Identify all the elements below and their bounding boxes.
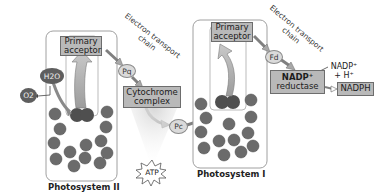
atp-glow [130, 106, 178, 168]
fd-label: Fd [269, 53, 278, 62]
reductase-label-line2: reductase [276, 82, 318, 92]
cytochrome-label-line2: complex [134, 97, 170, 107]
plastocyanin-pc: Pc [169, 119, 188, 134]
nadp-input-label: NADP⁺ + H⁺ [328, 62, 360, 80]
nadp-input-line1: NADP⁺ [328, 62, 360, 71]
ps1-primary-acceptor: Primary acceptor [211, 22, 253, 42]
cytochrome-complex: Cytochrome complex [123, 86, 181, 108]
water-label: H2O [44, 72, 60, 81]
water-molecule: H2O [40, 68, 64, 84]
nadp-input-line2: + H⁺ [328, 71, 360, 80]
nadp-reductase: NADP⁺ reductase [270, 70, 325, 94]
oxygen-label: O2 [23, 91, 34, 100]
photosystem-1-label: Photosystem I [197, 169, 266, 179]
atp-label: ATP [141, 168, 163, 177]
photosystem-1-panel [193, 20, 267, 168]
plastoquinone-pq: Pq [118, 64, 136, 78]
ps2-acceptor-label: Primary acceptor [64, 37, 98, 56]
ps1-acceptor-line2: acceptor [213, 32, 250, 42]
nadph-label: NADPH [340, 84, 370, 94]
light-reactions-diagram: Primary acceptor H2O O2 Photosystem II E… [0, 0, 385, 195]
oxygen-molecule: O2 [20, 88, 37, 103]
nadph-product: NADPH [337, 82, 374, 96]
diagram-graphics [0, 0, 385, 195]
pq-label: Pq [122, 67, 131, 76]
ps2-primary-acceptor: Primary acceptor [60, 36, 102, 56]
ferredoxin-fd: Fd [265, 50, 283, 64]
photosystem-2-label: Photosystem II [48, 182, 120, 192]
pc-label: Pc [174, 122, 183, 131]
